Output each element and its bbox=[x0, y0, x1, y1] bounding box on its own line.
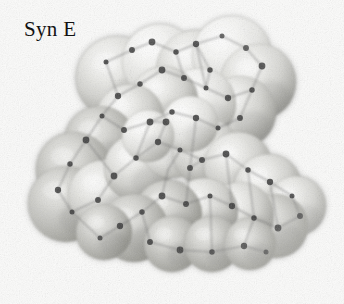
figure-label: Syn E bbox=[24, 19, 76, 40]
atom-sphere bbox=[224, 218, 276, 270]
molecular-figure: Syn E bbox=[0, 0, 344, 304]
atom-sphere bbox=[122, 110, 174, 162]
space-filling-molecule-graphic bbox=[0, 0, 344, 304]
atom-sphere bbox=[76, 204, 132, 260]
